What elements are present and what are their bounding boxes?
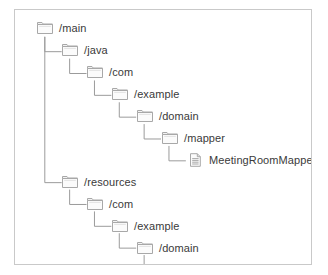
folder-icon — [162, 131, 178, 145]
file-tree: /main/java/com/example/domain/mapperMeet… — [15, 10, 311, 264]
tree-folder-row[interactable]: /java — [62, 41, 108, 59]
tree-node-label: MeetingRoomMapper.java — [209, 153, 312, 167]
tree-node-label: /mapper — [184, 131, 225, 145]
tree-folder-row[interactable]: /com — [87, 195, 133, 213]
tree-node-label: /resources — [84, 175, 136, 189]
folder-icon — [37, 21, 53, 35]
tree-folder-row[interactable]: /mapper — [162, 261, 225, 265]
tree-node-label: /java — [84, 43, 108, 57]
file-icon — [187, 153, 203, 167]
folder-icon — [87, 65, 103, 79]
tree-folder-row[interactable]: /example — [112, 217, 179, 235]
tree-node-label: /example — [134, 87, 179, 101]
tree-node-label: /domain — [159, 241, 199, 255]
tree-folder-row[interactable]: /example — [112, 85, 179, 103]
tree-folder-row[interactable]: /main — [37, 19, 86, 37]
tree-folder-row[interactable]: /domain — [137, 239, 199, 257]
folder-icon — [162, 263, 178, 265]
tree-folder-row[interactable]: /domain — [137, 107, 199, 125]
tree-node-label: /com — [109, 197, 133, 211]
tree-folder-row[interactable]: /com — [87, 63, 133, 81]
folder-icon — [62, 43, 78, 57]
folder-icon — [62, 175, 78, 189]
tree-node-label: /mapper — [184, 263, 225, 265]
file-tree-panel: /main/java/com/example/domain/mapperMeet… — [14, 9, 312, 265]
tree-node-label: /domain — [159, 109, 199, 123]
tree-node-label: /com — [109, 65, 133, 79]
folder-icon — [87, 197, 103, 211]
tree-folder-row[interactable]: /mapper — [162, 129, 225, 147]
folder-icon — [137, 109, 153, 123]
tree-node-label: /main — [59, 21, 86, 35]
folder-icon — [112, 87, 128, 101]
tree-file-row[interactable]: MeetingRoomMapper.java — [187, 151, 312, 169]
folder-icon — [137, 241, 153, 255]
tree-folder-row[interactable]: /resources — [62, 173, 136, 191]
tree-node-label: /example — [134, 219, 179, 233]
folder-icon — [112, 219, 128, 233]
